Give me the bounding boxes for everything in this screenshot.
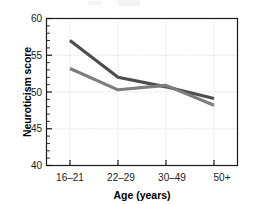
plot-area <box>0 0 255 204</box>
data-series-line <box>70 41 214 99</box>
chart-figure: Neuroticism score 40 45 50 55 60 16–21 2… <box>0 0 255 204</box>
data-series-layer <box>70 41 214 106</box>
gridlines <box>47 19 238 166</box>
data-series-line <box>70 68 214 105</box>
